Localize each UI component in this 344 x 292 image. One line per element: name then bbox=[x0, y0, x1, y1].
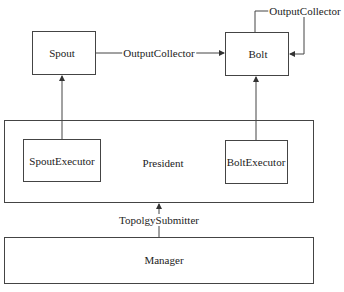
president-label: President bbox=[142, 157, 185, 169]
bolt-label: Bolt bbox=[248, 48, 269, 60]
manager-label: Manager bbox=[143, 254, 184, 266]
bolt-executor-label: BoltExecutor bbox=[226, 156, 287, 168]
spout-to-bolt-label: OutputCollector bbox=[122, 47, 196, 59]
spout-label: Spout bbox=[48, 47, 76, 59]
spout-executor-label: SpoutExecutor bbox=[28, 155, 95, 167]
bolt-self-loop-label: OutputCollector bbox=[268, 5, 342, 17]
manager-to-president-label: TopolgySubmitter bbox=[118, 214, 200, 226]
